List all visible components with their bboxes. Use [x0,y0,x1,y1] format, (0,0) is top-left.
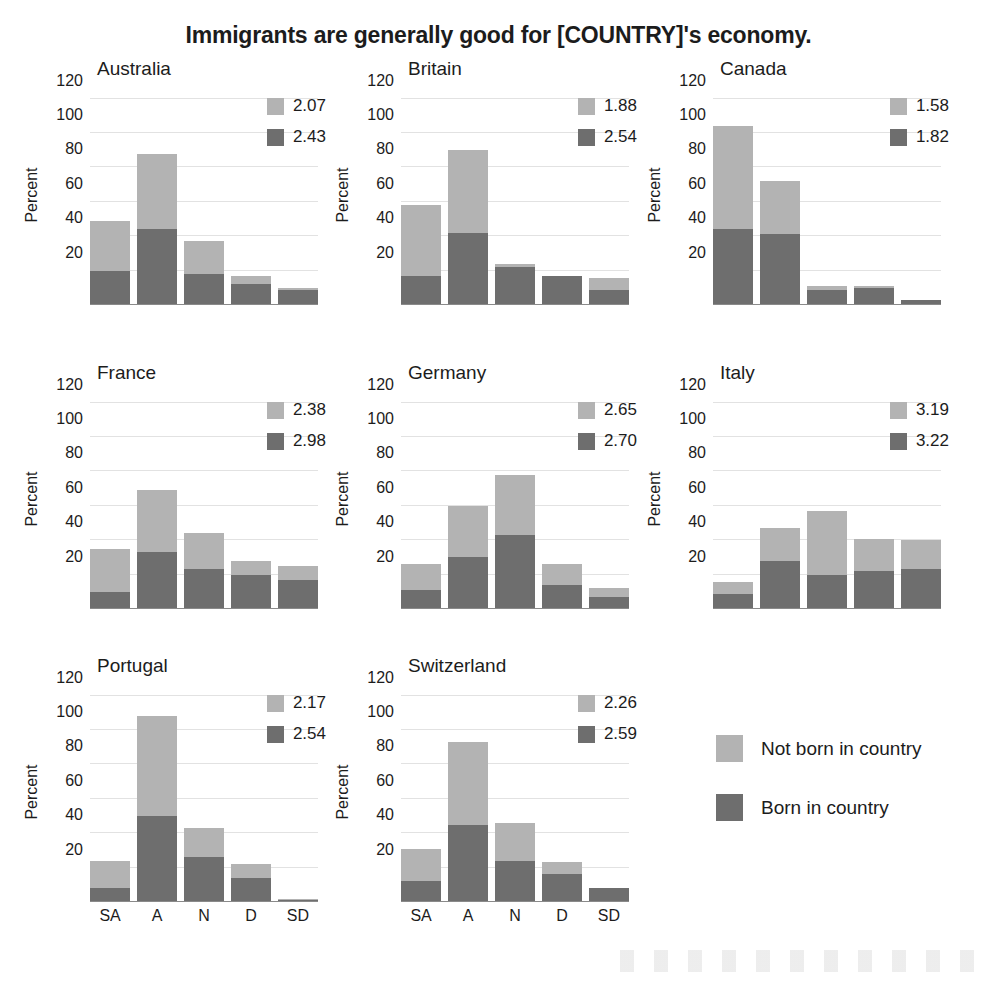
chart-title: Immigrants are generally good for [COUNT… [0,22,997,49]
bar-sa [401,394,441,609]
bar-segment-born [137,229,177,305]
panel-mean-not-born: 2.26 [578,693,637,713]
y-axis-tick: 100 [367,410,394,428]
bar-segment-not-born [807,511,847,575]
bar-a [137,394,177,609]
panel-mean-born: 2.98 [267,431,326,451]
bar-d [854,394,894,609]
panel-title: Germany [408,362,486,384]
y-axis-label: Percent [23,155,41,235]
y-axis-tick: 60 [376,175,394,193]
swatch-born-icon [578,433,595,450]
bar-segment-born [901,569,941,609]
y-axis-tick: 40 [376,209,394,227]
bar-segment-not-born [184,241,224,274]
swatch-not-born-icon [578,695,595,712]
bar-segment-born [807,575,847,609]
bar-segment-not-born [137,154,177,230]
y-axis-tick: 100 [679,410,706,428]
y-axis-tick: 40 [688,209,706,227]
bar-segment-born [278,290,318,305]
panel-portugal: PortugalPercent20406080100120SAANDSD2.17… [22,655,332,930]
x-axis-tick: SD [589,907,629,925]
panel-mean-born: 2.70 [578,431,637,451]
y-axis-tick: 80 [688,444,706,462]
bar-segment-born [495,267,535,305]
y-axis-tick: 80 [376,444,394,462]
bar-segment-not-born [401,849,441,882]
x-axis-line [713,304,941,305]
panel-mean-not-born: 1.88 [578,96,637,116]
x-axis-line [401,608,629,609]
bar-segment-born [231,878,271,902]
bar-n [184,687,224,902]
mean-value-not-born: 2.26 [604,693,637,713]
bar-segment-not-born [231,276,271,285]
panel-title: Australia [97,58,171,80]
y-axis-tick: 60 [65,772,83,790]
bar-segment-not-born [231,864,271,878]
x-axis-line [401,304,629,305]
y-axis-tick: 100 [56,410,83,428]
legend-item-not-born: Not born in country [716,735,922,762]
legend-label-not-born: Not born in country [761,738,922,760]
bar-n [495,90,535,305]
mean-value-born: 2.59 [604,724,637,744]
panel-mean-not-born: 2.17 [267,693,326,713]
bar-a [760,90,800,305]
bar-segment-not-born [90,549,130,592]
y-axis-tick: 100 [56,703,83,721]
x-axis-line [90,608,318,609]
y-axis-tick: 80 [65,140,83,158]
y-axis-tick: 40 [376,513,394,531]
panel-mean-not-born: 2.07 [267,96,326,116]
y-axis-tick: 20 [65,548,83,566]
panel-mean-born: 2.54 [267,724,326,744]
panel-title: Canada [720,58,787,80]
bar-segment-born [448,825,488,902]
bar-sa [90,394,130,609]
bar-segment-not-born [448,506,488,558]
bar-d [854,90,894,305]
y-axis-tick: 80 [65,444,83,462]
bar-segment-not-born [589,588,629,597]
swatch-born-icon [267,433,284,450]
bar-segment-born [854,571,894,609]
bar-segment-born [589,888,629,902]
mean-value-born: 2.54 [293,724,326,744]
y-axis-label: Percent [334,752,352,832]
bar-n [184,90,224,305]
bar-sa [401,687,441,902]
bar-segment-not-born [90,221,130,271]
bar-segment-born [542,276,582,305]
x-axis-ticks: SAANDSD [90,907,318,925]
bar-segment-not-born [401,205,441,276]
bar-segment-not-born [495,475,535,535]
bar-n [495,687,535,902]
panel-title: Britain [408,58,462,80]
panel-france: FrancePercent204060801001202.382.98 [22,362,332,637]
bar-segment-not-born [542,862,582,874]
bar-segment-born [495,535,535,609]
y-axis-tick: 40 [65,806,83,824]
panel-title: Switzerland [408,655,506,677]
mean-value-born: 2.70 [604,431,637,451]
bar-segment-not-born [184,828,224,857]
bar-n [184,394,224,609]
bar-segment-born [448,233,488,305]
x-axis-line [90,901,318,902]
bar-segment-born [137,552,177,609]
legend-swatch-not-born-icon [716,735,743,762]
bar-segment-born [90,592,130,609]
bar-segment-not-born [184,533,224,569]
y-axis-tick: 120 [56,376,83,394]
swatch-not-born-icon [578,98,595,115]
bar-segment-not-born [137,490,177,552]
y-axis-tick: 20 [376,548,394,566]
swatch-not-born-icon [890,98,907,115]
bar-segment-not-born [854,539,894,572]
bar-sa [713,90,753,305]
panel-germany: GermanyPercent204060801001202.652.70 [333,362,643,637]
y-axis-tick: 80 [65,737,83,755]
panel-mean-legend: 3.193.22 [890,400,949,451]
